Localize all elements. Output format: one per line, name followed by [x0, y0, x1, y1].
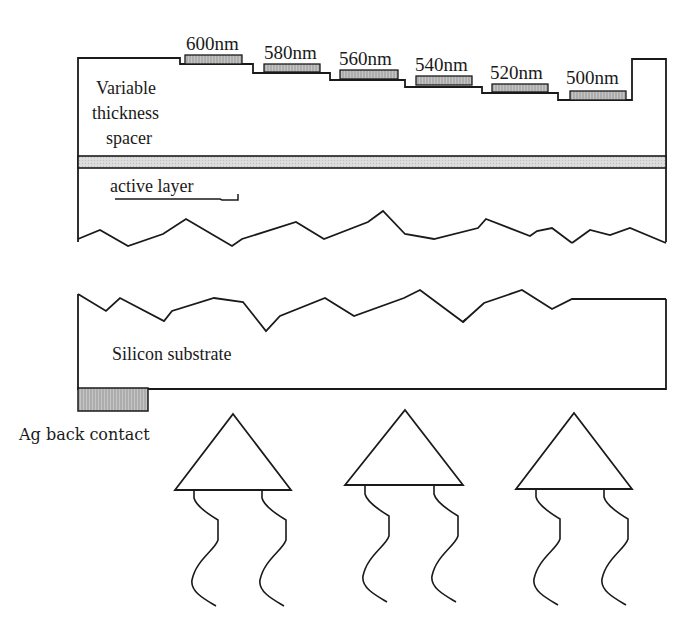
- active-layer-label-group: active layer: [110, 176, 238, 200]
- filter-pad-560: [340, 70, 398, 79]
- light-ray-wave-icon: [602, 489, 628, 605]
- filter-label-540: 540nm: [415, 54, 468, 75]
- spacer-label-line2: thickness: [92, 103, 159, 123]
- spacer-label-line3: spacer: [106, 128, 152, 148]
- light-source-3: [516, 413, 632, 605]
- light-ray-wave-icon: [363, 485, 389, 602]
- back-contact: [78, 388, 148, 411]
- device-diagram: 600nm 580nm 560nm 540nm 520nm 500nm Vari…: [0, 0, 694, 630]
- filter-pad-600: [185, 55, 242, 64]
- filter-pad-580: [264, 64, 320, 72]
- back-contact-label: Ag back contact: [18, 425, 150, 444]
- spacer-label: Variable thickness spacer: [92, 78, 159, 148]
- light-source-triangle-icon: [516, 413, 632, 489]
- filter-label-520: 520nm: [490, 62, 543, 83]
- upper-break-edge: [78, 211, 572, 246]
- light-source-triangle-icon: [175, 414, 291, 490]
- light-ray-wave-icon: [192, 490, 218, 606]
- filter-label-560: 560nm: [339, 48, 392, 69]
- spacer-label-line1: Variable: [96, 78, 156, 98]
- filter-pad-520: [492, 84, 548, 92]
- filter-pad-500: [570, 91, 626, 100]
- substrate-body: [78, 294, 666, 389]
- substrate-outline: [78, 290, 666, 331]
- filter-pads: [185, 55, 626, 100]
- interface-band: [78, 156, 666, 168]
- substrate-rough-right: [463, 319, 466, 322]
- light-ray-wave-icon: [432, 485, 458, 602]
- light-source-1: [175, 414, 291, 606]
- filter-label-500: 500nm: [566, 67, 619, 88]
- light-source-triangle-icon: [345, 410, 463, 485]
- upper-break-edge-right: [572, 228, 666, 243]
- active-layer-label: active layer: [110, 176, 193, 196]
- light-ray-wave-icon: [534, 489, 560, 605]
- light-ray-wave-icon: [260, 490, 286, 606]
- filter-label-580: 580nm: [264, 42, 317, 63]
- substrate-block: [78, 290, 666, 389]
- substrate-label: Silicon substrate: [112, 344, 232, 364]
- filter-pad-540: [416, 76, 472, 85]
- light-source-2: [345, 410, 463, 602]
- filter-label-600: 600nm: [186, 33, 239, 54]
